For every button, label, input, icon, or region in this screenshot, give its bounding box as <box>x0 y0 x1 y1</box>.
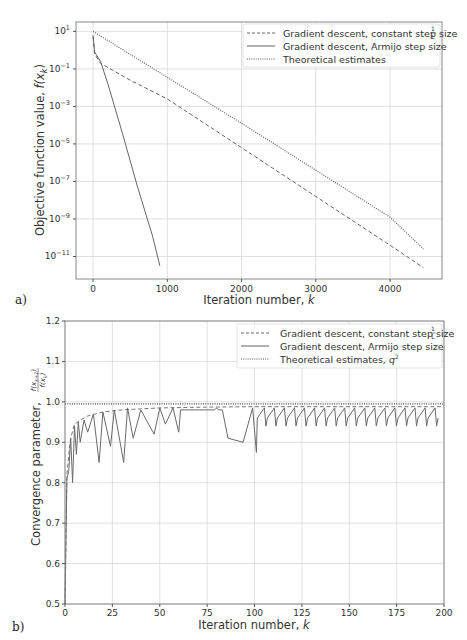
x-tick-label: 125 <box>293 608 310 618</box>
y-tick-label: 0.9 <box>46 437 61 447</box>
panel-label-b: b) <box>12 620 24 634</box>
y-tick-label: 0.7 <box>46 518 60 528</box>
legend-item-theoretical: Theoretical estimates <box>282 54 386 65</box>
y-tick-label: 0.5 <box>46 599 60 609</box>
y-tick-label: 1.2 <box>46 316 60 326</box>
x-tick-label: 100 <box>246 608 263 618</box>
x-tick-label: 200 <box>435 608 452 618</box>
chart-b-xlabel: Iteration number, k <box>198 618 311 632</box>
chart-a-xlabel: Iteration number, k <box>203 293 316 307</box>
y-tick-label: 10−11 <box>45 249 70 261</box>
chart-a-ylabel: Objective function value, f(xk) <box>33 64 49 236</box>
legend-item-armijo: Gradient descent, Armijo step size <box>280 341 444 352</box>
chart-a: 0100020003000400010110−110−310−510−710−9… <box>15 22 458 307</box>
figure: 0100020003000400010110−110−310−510−710−9… <box>0 0 467 640</box>
panel-label-a: a) <box>15 293 27 307</box>
legend-frac-num: 1 <box>431 325 435 332</box>
series-line-armijo <box>65 408 438 604</box>
x-tick-label: 50 <box>154 608 166 618</box>
y-tick-label: 1.0 <box>46 397 61 407</box>
legend-frac-num: 1 <box>431 25 435 32</box>
y-tick-label: 0.8 <box>46 478 61 488</box>
legend-item-armijo: Gradient descent, Armijo step size <box>283 41 447 52</box>
legend-item-constant: Gradient descent, constant step size <box>280 328 455 339</box>
y-tick-label: 10−5 <box>49 137 70 149</box>
svg-text:f(xk+1): f(xk+1) <box>30 369 39 392</box>
series-line <box>93 37 423 268</box>
y-tick-label: 10−1 <box>49 62 70 74</box>
y-tick-label: 0.6 <box>46 559 61 569</box>
chart-b: 02550751001251501752000.50.60.70.80.91.0… <box>12 316 455 634</box>
x-tick-label: 75 <box>201 608 212 618</box>
y-tick-label: 10−9 <box>49 212 70 224</box>
x-tick-label: 25 <box>107 608 118 618</box>
series-line <box>93 35 160 266</box>
svg-text:Convergence parameter,: Convergence parameter, <box>29 402 43 546</box>
y-tick-label: 10−7 <box>49 174 70 186</box>
svg-text:f(xk): f(xk) <box>39 372 48 387</box>
y-tick-label: 10−3 <box>49 99 70 111</box>
x-tick-label: 150 <box>341 608 358 618</box>
x-tick-label: 175 <box>388 608 405 618</box>
x-tick-label: 4000 <box>379 284 402 294</box>
chart-b-legend: Gradient descent, constant step size 1 L… <box>237 324 455 368</box>
y-tick-label: 1.1 <box>46 356 60 366</box>
legend-item-theoretical: Theoretical estimates, q2 <box>279 353 399 365</box>
x-tick-label: 1000 <box>156 284 179 294</box>
chart-a-legend: Gradient descent, constant step size 1 L… <box>243 24 458 67</box>
y-tick-label: 101 <box>54 24 70 36</box>
x-tick-label: 0 <box>62 608 68 618</box>
x-tick-label: 0 <box>90 284 96 294</box>
